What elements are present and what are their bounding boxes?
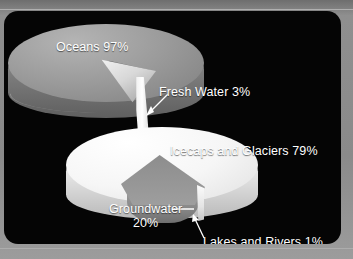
label-oceans: Oceans 97% [56, 40, 129, 54]
label-lakes-rivers: Lakes and Rivers 1% [203, 235, 323, 244]
bottom-divider-rule [0, 248, 353, 249]
figure-root: Oceans 97% Fresh Water 3% Icecaps and Gl… [0, 0, 353, 259]
label-groundwater-name: Groundwater [109, 202, 182, 216]
chart-stage: Oceans 97% Fresh Water 3% Icecaps and Gl… [4, 11, 341, 244]
label-fresh-water: Fresh Water 3% [159, 85, 250, 99]
label-groundwater-percent: 20% [109, 216, 182, 230]
label-icecaps-glaciers: Icecaps and Glaciers 79% [170, 144, 318, 158]
top-divider-rule [0, 9, 353, 10]
label-groundwater: Groundwater 20% [109, 202, 182, 230]
